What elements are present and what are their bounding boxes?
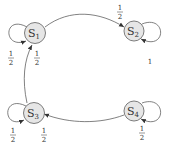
svg-text:2: 2 (118, 13, 122, 21)
svg-text:2: 2 (11, 136, 15, 144)
svg-text:1: 1 (11, 127, 15, 135)
node-s4: S4 (124, 101, 144, 121)
node-s3: S3 (24, 103, 45, 124)
edge-s1-s2 (45, 14, 124, 27)
svg-text:1: 1 (140, 125, 144, 133)
label-s1-s2: 1 2 (117, 4, 123, 21)
label-loop-s2: 1 (148, 58, 152, 66)
label-loop-s1: 1 2 (8, 50, 14, 67)
svg-text:2: 2 (35, 59, 39, 67)
svg-text:2: 2 (140, 134, 144, 142)
svg-text:1: 1 (148, 58, 152, 66)
edge-s4-s3 (44, 114, 124, 122)
edge-s3-s1 (24, 45, 32, 103)
svg-text:1: 1 (118, 4, 122, 12)
svg-text:1: 1 (42, 127, 46, 135)
svg-text:1: 1 (9, 50, 13, 58)
svg-text:1: 1 (35, 50, 39, 58)
node-s2: S2 (124, 21, 144, 41)
node-s1: S1 (25, 23, 46, 44)
svg-text:2: 2 (9, 59, 13, 67)
label-loop-s4: 1 2 (139, 125, 145, 142)
label-loop-s3: 1 2 (10, 127, 16, 144)
label-s3-s1: 1 2 (34, 50, 40, 67)
label-s4-s3: 1 2 (41, 127, 47, 144)
markov-diagram: S1 S2 S3 S4 1 2 1 2 1 1 2 1 2 1 2 1 (0, 0, 169, 148)
svg-text:2: 2 (42, 136, 46, 144)
